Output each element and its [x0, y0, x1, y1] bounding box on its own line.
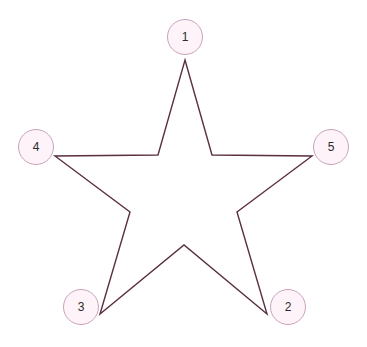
- node-5[interactable]: 5: [313, 129, 349, 165]
- node-4[interactable]: 4: [18, 129, 54, 165]
- node-5-label: 5: [328, 141, 335, 153]
- node-2[interactable]: 2: [270, 289, 306, 325]
- node-1[interactable]: 1: [167, 19, 203, 55]
- node-3[interactable]: 3: [63, 289, 99, 325]
- star-polygon: [55, 60, 312, 314]
- diagram-canvas: 1 2 3 4 5: [0, 0, 367, 347]
- node-4-label: 4: [33, 141, 40, 153]
- node-2-label: 2: [285, 301, 292, 313]
- node-3-label: 3: [78, 301, 85, 313]
- node-1-label: 1: [182, 31, 189, 43]
